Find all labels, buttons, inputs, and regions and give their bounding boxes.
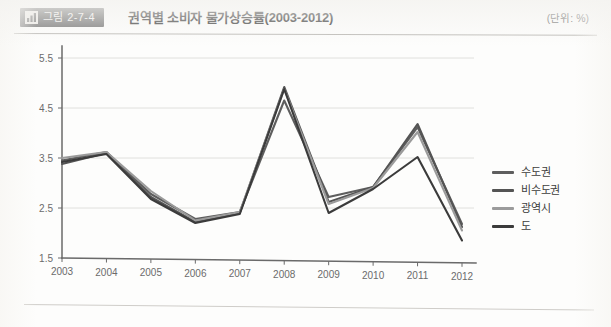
figure-number-badge: 그림 2-7-4	[20, 8, 104, 27]
y-tick-label: 5.5	[39, 53, 53, 64]
chart-axes	[62, 46, 476, 263]
x-axis	[62, 258, 476, 263]
x-tick-label: 2010	[362, 270, 385, 281]
legend-color-swatch-0	[492, 171, 514, 174]
y-tick-label: 4.5	[39, 103, 53, 114]
x-tick-label: 2009	[318, 269, 341, 280]
legend-label-1: 비수도권	[521, 185, 560, 196]
series-line-2	[62, 89, 462, 231]
legend-label-0: 수도권	[521, 167, 550, 178]
legend-item-0: 수도권	[492, 163, 604, 181]
legend-item-1: 비수도권	[492, 181, 604, 199]
x-tick-label: 2007	[229, 268, 252, 279]
figure-page: 그림 2-7-4 권역별 소비자 물가상승률(2003-2012) (단위: %…	[0, 0, 611, 327]
y-tick-label: 3.5	[39, 153, 53, 164]
x-tick-label: 2011	[407, 270, 429, 281]
legend-item-3: 도	[492, 217, 604, 235]
y-tick-label: 2.5	[39, 203, 53, 214]
legend-label-3: 도	[521, 221, 531, 232]
bar-chart-icon	[25, 11, 38, 24]
x-tick-label: 2012	[451, 271, 474, 282]
x-tick-label: 2008	[273, 269, 296, 280]
legend-color-swatch-3	[492, 225, 514, 228]
series-line-0	[62, 101, 462, 225]
legend-color-swatch-2	[492, 207, 514, 210]
x-tick-label: 2006	[184, 268, 207, 279]
footer-divider	[24, 304, 594, 310]
legend-color-swatch-1	[492, 189, 514, 192]
x-tick-label: 2004	[95, 267, 118, 278]
y-tick-label: 1.5	[39, 253, 53, 264]
data-series-layer	[62, 87, 462, 241]
header-divider	[14, 33, 597, 36]
x-tick-label: 2003	[51, 266, 74, 277]
legend-label-2: 광역시	[521, 203, 550, 214]
y-axis-labels: 1.52.53.54.55.5	[39, 53, 53, 264]
figure-number-label: 그림 2-7-4	[43, 12, 95, 24]
figure-header: 그림 2-7-4 권역별 소비자 물가상승률(2003-2012) (단위: %…	[0, 0, 611, 38]
x-axis-labels: 2003200420052006200720082009201020112012	[51, 266, 474, 282]
x-tick-label: 2005	[140, 267, 163, 278]
figure-title: 권역별 소비자 물가상승률(2003-2012)	[128, 8, 333, 27]
legend-item-2: 광역시	[492, 199, 604, 217]
chart-legend: 수도권 비수도권 광역시 도	[492, 163, 604, 235]
unit-note: (단위: %)	[547, 10, 589, 27]
